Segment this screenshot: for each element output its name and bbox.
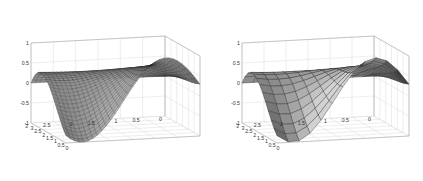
z-tick-label: 0.5 (22, 60, 29, 66)
x-tick-label: 2.5 (43, 122, 50, 128)
x-tick-label: 0.5 (342, 117, 349, 123)
surface-plot-right: -1-0.500.5132.521.510.5032.521.510.50 (212, 0, 423, 181)
y-tick-label: 0 (277, 145, 280, 151)
z-tick-label: 0 (237, 80, 240, 86)
y-tick-label: 2 (253, 132, 256, 138)
x-tick-label: 0 (368, 116, 371, 122)
y-tick-label: 3 (242, 125, 245, 131)
z-tick-label: 0.5 (233, 60, 240, 66)
y-tick-label: 3 (31, 125, 34, 131)
z-tick-label: 0 (26, 80, 29, 86)
x-tick-label: 2.5 (254, 122, 261, 128)
y-tick-label: 2.5 (245, 128, 252, 134)
y-tick-label: 2 (42, 132, 45, 138)
z-tick-label: -0.5 (20, 100, 29, 106)
figure: -1-0.500.5132.521.510.5032.521.510.50 -1… (0, 0, 423, 181)
y-tick-label: 1 (54, 138, 57, 144)
x-tick-label: 1 (114, 118, 117, 124)
y-tick-label: 0 (66, 145, 69, 151)
z-tick-label: 1 (237, 40, 240, 46)
plot-canvas-left: -1-0.500.5132.521.510.5032.521.510.50 (0, 0, 212, 181)
z-tick-label: -0.5 (231, 100, 240, 106)
x-tick-label: 0 (159, 116, 162, 122)
x-tick-label: 1 (324, 118, 327, 124)
x-tick-label: 1.5 (298, 120, 305, 126)
x-tick-label: 3 (236, 123, 239, 129)
y-tick-label: 1 (265, 138, 268, 144)
x-tick-label: 0.5 (132, 117, 139, 123)
plot-canvas-right: -1-0.500.5132.521.510.5032.521.510.50 (212, 0, 423, 181)
y-tick-label: 2.5 (34, 128, 41, 134)
y-tick-label: 1.5 (257, 135, 264, 141)
z-tick-label: 1 (26, 40, 29, 46)
x-tick-label: 3 (25, 123, 28, 129)
x-tick-label: 2 (280, 121, 283, 127)
surface-plot-left: -1-0.500.5132.521.510.5032.521.510.50 (0, 0, 212, 181)
y-tick-label: 0.5 (269, 142, 276, 148)
x-tick-label: 1.5 (88, 120, 95, 126)
y-tick-label: 0.5 (58, 142, 65, 148)
x-tick-label: 2 (70, 121, 73, 127)
y-tick-label: 1.5 (46, 135, 53, 141)
